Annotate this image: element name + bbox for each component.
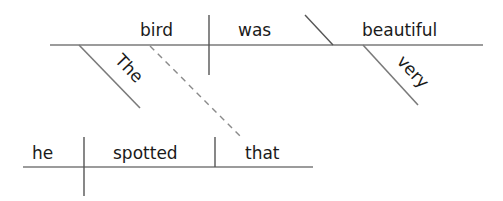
word-predicate-adjective: beautiful xyxy=(362,20,437,40)
word-relative-subject: he xyxy=(32,143,53,163)
relative-connector-dashed xyxy=(150,46,240,136)
sentence-diagram: bird was beautiful The very he spotted t… xyxy=(0,0,503,201)
word-relative-verb: spotted xyxy=(113,143,178,163)
word-adjective-modifier: very xyxy=(393,51,433,92)
word-subject: bird xyxy=(140,20,173,40)
word-relative-object: that xyxy=(245,143,280,163)
predicate-adjective-divider xyxy=(305,15,333,45)
word-verb: was xyxy=(238,20,271,40)
word-subject-modifier: The xyxy=(110,49,147,86)
